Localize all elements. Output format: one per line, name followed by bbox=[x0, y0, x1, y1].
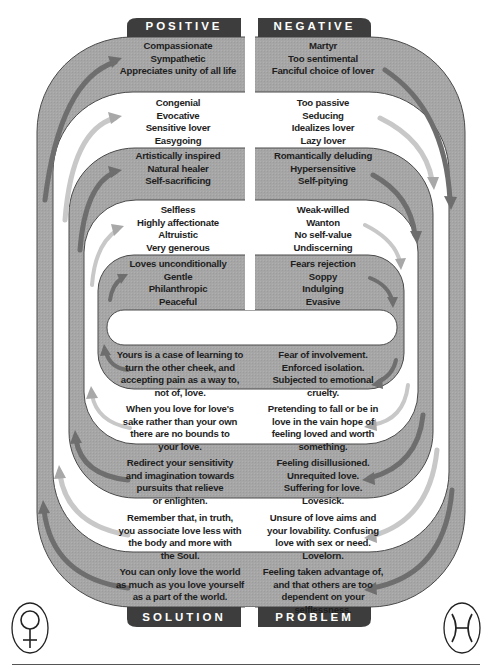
negative-ring-2: Too passiveSeducingIdealizes loverLazy l… bbox=[255, 97, 391, 147]
pisces-symbol bbox=[444, 603, 480, 653]
problem-ring-5: Fear of involvement.Enforced isolation.S… bbox=[253, 349, 393, 399]
problem-ring-4: Pretending to fall or be inlove in the v… bbox=[253, 403, 393, 453]
bottom-divider-line bbox=[12, 664, 480, 665]
negative-ring-5: Fears rejectionSoppyIndulgingEvasive bbox=[255, 258, 391, 308]
solution-ring-4: When you love for love'ssake rather than… bbox=[110, 403, 250, 453]
solution-ring-2: Remember that, in truth,you associate lo… bbox=[110, 512, 250, 562]
tab-negative: NEGATIVE bbox=[258, 20, 371, 32]
concentric-bands bbox=[0, 0, 501, 671]
problem-ring-3: Feeling disillusioned.Unrequited love.Su… bbox=[253, 457, 393, 507]
positive-ring-5: Loves unconditionallyGentlePhilanthropic… bbox=[110, 258, 246, 308]
problem-ring-1: Feeling taken advantage of,and that othe… bbox=[253, 566, 393, 616]
tab-solution: SOLUTION bbox=[127, 611, 241, 623]
negative-ring-3: Romantically deludingHypersensitiveSelf-… bbox=[255, 150, 391, 188]
positive-ring-4: SelflessHighly affectionateAltruisticVer… bbox=[110, 204, 246, 254]
positive-ring-2: CongenialEvocativeSensitive loverEasygoi… bbox=[110, 97, 246, 147]
negative-ring-4: Weak-willedWantonNo self-valueUndiscerni… bbox=[255, 204, 391, 254]
solution-ring-1: You can only love the worldas much as yo… bbox=[110, 566, 250, 604]
tab-positive: POSITIVE bbox=[127, 20, 241, 32]
problem-ring-2: Unsure of love aims andyour lovability. … bbox=[253, 512, 393, 562]
venus-symbol bbox=[12, 603, 48, 653]
solution-ring-3: Redirect your sensitivityand imagination… bbox=[110, 457, 250, 507]
positive-ring-1: CompassionateSympatheticAppreciates unit… bbox=[110, 40, 246, 78]
positive-ring-3: Artistically inspiredNatural healerSelf-… bbox=[110, 150, 246, 188]
solution-ring-5: Yours is a case of learning toturn the o… bbox=[110, 349, 250, 399]
negative-ring-1: MartyrToo sentimentalFanciful choice of … bbox=[255, 40, 391, 78]
love-cycle-diagram: POSITIVE NEGATIVE SOLUTION PROBLEM Compa… bbox=[0, 0, 501, 671]
